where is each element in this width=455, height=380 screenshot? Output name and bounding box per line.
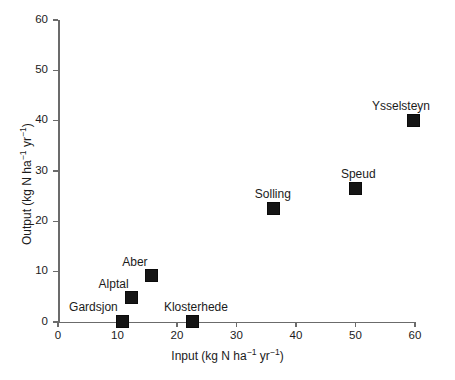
y-axis-line [58, 20, 60, 323]
data-point-marker[interactable] [125, 291, 138, 304]
y-tick-mark [53, 170, 58, 171]
x-tick-mark [57, 322, 58, 327]
y-tick-mark [53, 120, 58, 121]
plot-area: 0102030405060 0102030405060 GardsjonAlpt… [0, 0, 455, 380]
data-point-marker[interactable] [186, 315, 199, 328]
y-tick-mark [53, 221, 58, 222]
y-tick-mark [53, 271, 58, 272]
data-point-label: Ysselsteyn [372, 99, 430, 113]
data-point-label: Klosterhede [164, 300, 228, 314]
x-axis-title: Input (kg N ha−1 yr−1) [0, 349, 455, 363]
data-point-marker[interactable] [407, 114, 420, 127]
y-axis-title: Output (kg N ha−1 yr−1) [20, 123, 34, 245]
x-tick-mark [355, 322, 356, 327]
data-point-marker[interactable] [116, 315, 129, 328]
data-point-label: Aber [122, 255, 147, 269]
data-point-label: Alptal [99, 277, 129, 291]
scatter-plot-figure: 0102030405060 0102030405060 GardsjonAlpt… [0, 0, 455, 380]
x-tick-mark [236, 322, 237, 327]
x-tick-mark [176, 322, 177, 327]
y-tick-mark [53, 70, 58, 71]
y-tick-label: 50 [22, 63, 48, 75]
y-tick-label: 10 [22, 264, 48, 276]
x-tick-mark [295, 322, 296, 327]
x-tick-label: 50 [341, 329, 371, 341]
data-point-label: Solling [255, 187, 291, 201]
x-tick-mark [414, 322, 415, 327]
y-tick-mark [53, 19, 58, 20]
y-tick-label: 0 [22, 315, 48, 327]
data-point-label: Gardsjon [69, 300, 118, 314]
x-tick-label: 30 [222, 329, 252, 341]
data-point-marker[interactable] [145, 269, 158, 282]
x-tick-label: 40 [281, 329, 311, 341]
data-point-marker[interactable] [349, 182, 362, 195]
x-tick-label: 20 [162, 329, 192, 341]
data-point-marker[interactable] [267, 202, 280, 215]
x-tick-label: 0 [43, 329, 73, 341]
data-point-label: Speud [341, 167, 376, 181]
x-tick-label: 10 [103, 329, 133, 341]
y-tick-label: 60 [22, 13, 48, 25]
x-tick-label: 60 [400, 329, 430, 341]
